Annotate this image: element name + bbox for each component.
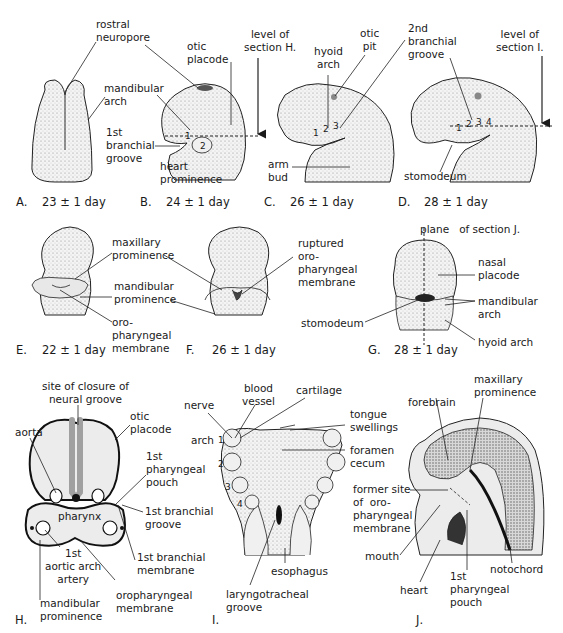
label-mouth: mouth [365, 550, 399, 563]
label-maxillary-prominence-j: maxillary prominence [474, 373, 536, 399]
label-forebrain: forebrain [408, 396, 456, 409]
label-arm-bud: arm bud [268, 158, 289, 184]
label-former-site-membrane: former site of oro- pharyngeal membrane [353, 483, 412, 535]
label-arch: arch [191, 434, 214, 447]
caption-panel-h: H. [15, 613, 27, 627]
label-first-aortic-arch-artery: 1st aortic arch artery [45, 547, 101, 586]
caption-panel-e: E.22 ± 1 day [16, 343, 106, 357]
panel-g-face [365, 228, 475, 345]
caption-panel-a: A.23 ± 1 day [16, 195, 106, 209]
label-nerve: nerve [184, 399, 214, 412]
caption-panel-d: D.28 ± 1 day [398, 195, 488, 209]
arch-number-4-d: 4 [486, 116, 492, 129]
embryology-figure: rostral neuropore A.23 ± 1 day otic plac… [0, 0, 563, 633]
label-nasal-placode: nasal placode [478, 256, 519, 282]
label-oropharyngeal-membrane-h: oropharyngeal membrane [116, 589, 192, 615]
arch-number-2-i: 2 [218, 458, 224, 471]
label-otic-placode-b: otic placode [187, 40, 228, 66]
label-first-pharyngeal-pouch-h: 1st pharyngeal pouch [146, 450, 205, 489]
label-oropharyngeal-membrane-e: oro- pharyngeal membrane [112, 316, 171, 355]
caption-panel-f: F.26 ± 1 day [186, 343, 276, 357]
arch-number-3-c: 3 [333, 120, 339, 133]
label-stomodeum-d: stomodeum [404, 170, 467, 183]
label-level-section-i: level of section I. [496, 28, 544, 54]
arch-number-1-c: 1 [313, 127, 319, 140]
caption-panel-j: J. [416, 613, 423, 627]
arch-number-2-d: 2 [466, 118, 472, 131]
label-cartilage: cartilage [296, 384, 342, 397]
label-pharynx: pharynx [58, 510, 101, 523]
label-hyoid-arch-g: hyoid arch [478, 336, 533, 349]
label-mandibular-arch-g: mandibular arch [478, 295, 538, 321]
label-mandibular-prominence-h: mandibular prominence [40, 597, 102, 623]
arch-number-2-c: 2 [323, 123, 329, 136]
label-first-branchial-membrane: 1st branchial membrane [137, 551, 205, 577]
label-plane-section-j: plane of section J. [420, 223, 520, 236]
label-foramen-cecum: foramen cecum [350, 444, 394, 470]
label-rostral-neuropore: rostral neuropore [96, 18, 150, 44]
label-maxillary-prominence-e: maxillary prominence [112, 236, 174, 262]
label-level-section-h: level of section H. [244, 28, 296, 54]
caption-panel-b: B.24 ± 1 day [140, 195, 230, 209]
caption-panel-i: I. [212, 613, 219, 627]
arch-number-3-i: 3 [225, 481, 231, 494]
panel-f-face [164, 227, 293, 315]
label-mandibular-prominence-e: mandibular prominence [114, 280, 176, 306]
label-site-of-closure: site of closure of neural groove [42, 380, 129, 406]
caption-panel-c: C.26 ± 1 day [264, 195, 354, 209]
label-hyoid-arch-c: hyoid arch [314, 45, 343, 71]
label-first-pharyngeal-pouch-j: 1st pharyngeal pouch [450, 570, 509, 609]
label-blood-vessel: blood vessel [242, 382, 275, 408]
label-tongue-swellings: tongue swellings [350, 408, 398, 434]
label-laryngotracheal-groove: laryngotracheal groove [226, 588, 309, 614]
label-otic-pit: otic pit [360, 27, 379, 53]
arch-number-2-b: 2 [200, 140, 206, 153]
label-aorta: aorta [15, 426, 43, 439]
label-stomodeum-g: stomodeum [301, 317, 364, 330]
panel-e-face [32, 227, 112, 322]
label-first-branchial-groove-b: 1st branchial groove [106, 126, 155, 165]
caption-panel-g: G.28 ± 1 day [368, 343, 458, 357]
label-mandibular-arch-b: mandibular arch [104, 82, 164, 108]
label-second-branchial-groove: 2nd branchial groove [408, 22, 457, 61]
label-otic-placode-h: otic placode [130, 410, 171, 436]
arch-number-3-d: 3 [476, 116, 482, 129]
panel-j-sagittal [400, 398, 544, 582]
arch-number-1-i: 1 [218, 434, 224, 447]
label-heart-prominence: heart prominence [160, 160, 222, 186]
arch-number-4-i: 4 [237, 498, 243, 511]
label-ruptured-membrane: ruptured oro- pharyngeal membrane [298, 237, 357, 289]
arch-number-1-d: 1 [456, 122, 462, 135]
label-esophagus: esophagus [271, 565, 328, 578]
label-first-branchial-groove-h: 1st branchial groove [145, 505, 213, 531]
label-heart: heart [400, 584, 428, 597]
panel-a-embryo [32, 42, 105, 182]
arch-number-1-b: 1 [185, 130, 191, 143]
